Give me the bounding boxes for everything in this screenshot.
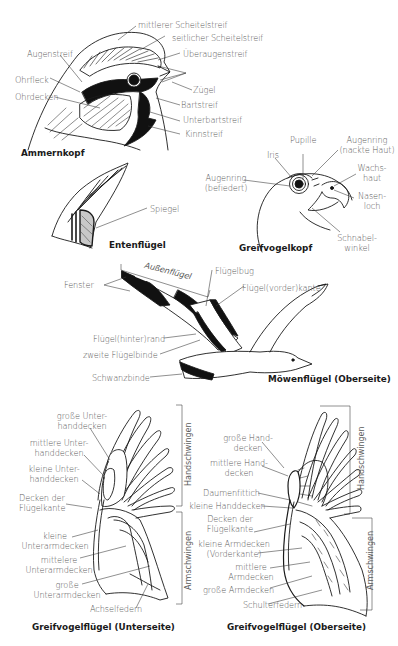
label-fluegelvorderkante: Flügel(vorder)kante (242, 283, 321, 293)
title-greifvogelfluegel-unterseite: Greifvogelflügel (Unterseite) (32, 622, 175, 632)
label-wachshaut-line2: haut (355, 173, 389, 183)
label-mittlere-unterarmdecken-line1: mittelere (24, 555, 94, 565)
label-grosse-unterarmdecken-line2: Unterarmdecken (32, 590, 102, 600)
label-daumenfittich: Daumenfittich (203, 488, 260, 498)
label-mittlere-unterhanddecken-line1: mittlere Unter- (26, 438, 92, 448)
title-entenfluegel: Entenflügel (109, 240, 166, 250)
label-decken-fluegelkante-unterseite-line1: Decken der (19, 493, 65, 503)
label-grosse-unterarmdecken-line1: große (32, 580, 102, 590)
label-wachshaut-line1: Wachs- (355, 163, 389, 173)
label-kleine-unterhanddecken: kleine Unter- handdecken (24, 464, 84, 484)
label-mittlere-armdecken-line1: mittlere (228, 562, 274, 572)
label-unterbartstreif: Unterbartstreif (183, 115, 242, 125)
label-mittlere-armdecken-line2: Armdecken (228, 572, 274, 582)
duck-wing-drawing (52, 163, 128, 248)
label-zuegel: Zügel (193, 85, 216, 95)
title-moewenfluegel: Möwenflügel (Oberseite) (268, 374, 391, 384)
label-decken-fluegelkante-unterseite: Decken der Flügelkante (19, 493, 65, 513)
label-pupille: Pupille (290, 135, 316, 145)
label-grosse-unterhanddecken-line2: handdecken (50, 421, 114, 431)
label-augenring-befiedert: Augenring (befiedert) (203, 173, 249, 193)
label-nasenloch: Nasen- loch (355, 191, 389, 211)
label-schnabelwinkel: Schnabel- winkel (334, 233, 380, 253)
label-grosse-handdecken-line2: decken (222, 443, 274, 453)
label-spiegel: Spiegel (150, 204, 179, 214)
bird-topography-plate: mittlerer Scheitelstreif seitlicher Sche… (0, 0, 398, 646)
label-fluegelhinterrand: Flügel(hinter)rand (93, 334, 165, 344)
label-grosse-unterhanddecken: große Unter- handdecken (50, 411, 114, 431)
title-ammernkopf: Ammernkopf (21, 148, 85, 158)
label-achselfedern: Achselfedern (90, 604, 142, 614)
label-augenring-nackt-line2: (nackte Haut) (339, 145, 395, 155)
title-greifvogelfluegel-oberseite: Greifvogelflügel (Oberseite) (227, 622, 366, 632)
label-schnabelwinkel-line2: winkel (334, 243, 380, 253)
label-ohrfleck: Ohrfleck (15, 75, 49, 85)
label-zweite-fluegelbinde: zweite Flügelbinde (83, 350, 158, 360)
label-mittlere-unterhanddecken-line2: handdecken (26, 448, 92, 458)
title-greifvogelkopf: Greifvogelkopf (239, 243, 312, 253)
label-mittlere-unterarmdecken-line2: Unterarmdecken (24, 565, 94, 575)
label-augenring-nackt-line1: Augenring (339, 135, 395, 145)
label-nasenloch-line2: loch (355, 201, 389, 211)
label-schnabelwinkel-line1: Schnabel- (334, 233, 380, 243)
label-schulterfedern: Schulterfedern (243, 600, 302, 610)
label-decken-fluegelkante-oberseite: Decken der Flügelkante (200, 514, 260, 534)
label-nasenloch-line1: Nasen- (355, 191, 389, 201)
raptor-wing-upperside-drawing (283, 412, 367, 616)
label-kleine-unterhanddecken-line1: kleine Unter- (24, 464, 84, 474)
label-bartstreif: Bartstreif (181, 100, 218, 110)
label-mittlere-unterhanddecken: mittlere Unter- handdecken (26, 438, 92, 458)
label-iris: Iris (267, 150, 279, 160)
label-kleine-unterarmdecken: kleine Unterarmdecken (20, 531, 90, 551)
label-mittlerer-scheitelstreif: mittlerer Scheitelstreif (138, 20, 227, 30)
label-armschwingen-unterseite: Armschwingen (184, 531, 193, 590)
label-ueberaugenstreif: Überaugenstreif (183, 49, 247, 59)
label-kleine-unterarmdecken-line1: kleine (20, 531, 90, 541)
label-handschwingen-unterseite: Handschwingen (184, 422, 193, 486)
label-seitlicher-scheitelstreif: seitlicher Scheitelstreif (172, 33, 263, 43)
label-grosse-armdecken: große Armdecken (203, 585, 274, 595)
label-kleine-armdecken: kleine Armdecken (Vorderkante) (195, 539, 273, 559)
label-grosse-handdecken-line1: große Hand- (222, 433, 274, 443)
label-augenring-befiedert-line1: Augenring (203, 173, 249, 183)
label-fenster: Fenster (64, 280, 94, 290)
label-schwanzbinde: Schwanzbinde (92, 373, 150, 383)
label-handschwingen-oberseite: Handschwingen (357, 426, 366, 490)
label-ohrdecken: Ohrdecken (15, 92, 58, 102)
label-decken-fluegelkante-unterseite-line2: Flügelkante (19, 503, 65, 513)
label-mittlere-handdecken-line1: mittlere Hand- (207, 458, 271, 468)
label-augenstreif: Augenstreif (27, 49, 73, 59)
label-armschwingen-oberseite: Armschwingen (366, 531, 375, 590)
label-grosse-handdecken: große Hand- decken (222, 433, 274, 453)
raptor-wing-underside-drawing (93, 410, 174, 600)
label-mittlere-handdecken: mittlere Hand- decken (207, 458, 271, 478)
label-decken-fluegelkante-oberseite-line2: Flügelkante (200, 524, 260, 534)
label-kleine-unterhanddecken-line2: handdecken (24, 474, 84, 484)
label-kleine-handdecken: kleine Handdecken (189, 501, 265, 511)
label-kleine-unterarmdecken-line2: Unterarmdecken (20, 541, 90, 551)
label-grosse-unterarmdecken: große Unterarmdecken (32, 580, 102, 600)
label-kleine-armdecken-line1: kleine Armdecken (195, 539, 273, 549)
label-wachshaut: Wachs- haut (355, 163, 389, 183)
label-mittlere-handdecken-line2: decken (207, 468, 271, 478)
label-kinnstreif: Kinnstreif (185, 129, 223, 139)
label-decken-fluegelkante-oberseite-line1: Decken der (200, 514, 260, 524)
label-augenring-befiedert-line2: (befiedert) (203, 183, 249, 193)
label-mittlere-armdecken: mittlere Armdecken (228, 562, 274, 582)
label-mittlere-unterarmdecken: mittelere Unterarmdecken (24, 555, 94, 575)
label-kleine-armdecken-line2: (Vorderkante) (195, 549, 273, 559)
label-grosse-unterhanddecken-line1: große Unter- (50, 411, 114, 421)
label-fluegelbug: Flügelbug (215, 266, 254, 276)
label-augenring-nackt: Augenring (nackte Haut) (339, 135, 395, 155)
